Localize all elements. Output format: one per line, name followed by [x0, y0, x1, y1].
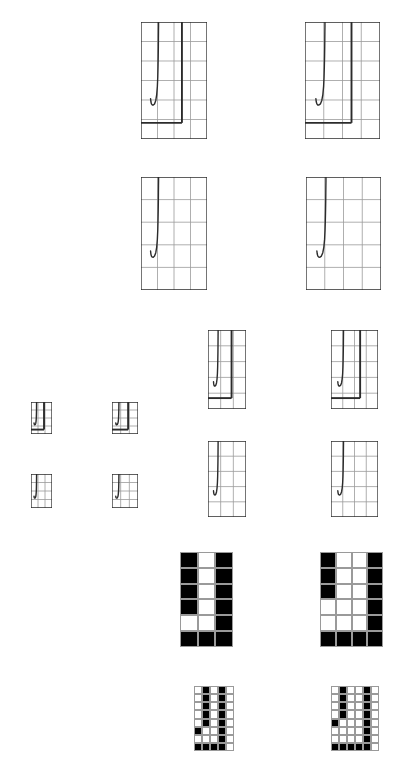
raster-cell: [371, 694, 379, 702]
raster-cell: [371, 702, 379, 710]
raster-cell: [218, 719, 226, 727]
raster-cell: [320, 599, 336, 615]
raster-cell: [202, 702, 210, 710]
curve-panel-medium-plain-narrow: [208, 441, 246, 517]
panel-gridlines: [306, 177, 381, 290]
raster-cell: [339, 735, 347, 743]
raster-cell: [198, 568, 216, 584]
raster-cell: [331, 686, 339, 694]
raster-cell: [218, 702, 226, 710]
raster-cell: [352, 599, 368, 615]
binarized-panel-coarse-wide: [320, 552, 383, 647]
raster-cell: [320, 615, 336, 631]
raster-cell: [367, 631, 383, 647]
raster-cell: [347, 694, 355, 702]
raster-cell: [363, 694, 371, 702]
curve-panel-medium-wide: [331, 330, 378, 409]
panel-gridlines: [331, 441, 378, 517]
curve-panel-large-narrow: [141, 22, 207, 139]
j-curve-path: [34, 474, 37, 498]
panel-gridlines: [141, 177, 207, 290]
raster-cell: [198, 631, 216, 647]
raster-cell: [226, 686, 234, 694]
raster-cell: [202, 743, 210, 751]
raster-cell: [210, 727, 218, 735]
binarized-panel-fine-narrow: [194, 686, 234, 751]
raster-cell: [355, 702, 363, 710]
panel-gridlines: [31, 474, 52, 508]
raster-cell: [363, 686, 371, 694]
raster-cell: [336, 568, 352, 584]
raster-cell: [320, 552, 336, 568]
raster-cell: [226, 702, 234, 710]
raster-cell: [215, 631, 233, 647]
raster-cell: [331, 710, 339, 718]
raster-cell: [367, 552, 383, 568]
raster-cell: [352, 584, 368, 600]
raster-cell: [202, 727, 210, 735]
curve-panel-plain-narrow: [141, 177, 207, 290]
raster-cell: [320, 584, 336, 600]
raster-cell: [339, 702, 347, 710]
raster-cell: [194, 735, 202, 743]
raster-cell: [339, 727, 347, 735]
raster-cell: [202, 686, 210, 694]
raster-cell: [215, 599, 233, 615]
raster-cell: [198, 552, 216, 568]
raster-cell: [352, 552, 368, 568]
raster-cell: [226, 727, 234, 735]
raster-cell: [336, 584, 352, 600]
raster-cell: [194, 710, 202, 718]
raster-cell: [347, 702, 355, 710]
raster-cell: [198, 599, 216, 615]
raster-cell: [210, 702, 218, 710]
raster-cell: [355, 694, 363, 702]
raster-cell: [194, 727, 202, 735]
raster-cell: [210, 710, 218, 718]
raster-cell: [194, 702, 202, 710]
raster-cell: [336, 599, 352, 615]
raster-cell: [215, 552, 233, 568]
raster-cell: [210, 694, 218, 702]
raster-cell: [363, 702, 371, 710]
raster-cell: [363, 710, 371, 718]
raster-cell: [226, 719, 234, 727]
raster-cell: [331, 702, 339, 710]
figure-canvas: [0, 0, 395, 780]
raster-cell: [371, 686, 379, 694]
raster-cell: [331, 694, 339, 702]
raster-cell: [180, 615, 198, 631]
curve-panel-tiny-plain-narrow: [31, 474, 52, 508]
raster-cell: [367, 568, 383, 584]
raster-cell: [226, 743, 234, 751]
raster-cell: [194, 719, 202, 727]
raster-cell: [347, 743, 355, 751]
raster-cell: [367, 615, 383, 631]
raster-cell: [218, 686, 226, 694]
raster-cell: [218, 735, 226, 743]
raster-cell: [363, 719, 371, 727]
raster-cell: [202, 735, 210, 743]
raster-cell: [180, 568, 198, 584]
raster-cell: [339, 686, 347, 694]
raster-cell: [180, 584, 198, 600]
raster-cell: [320, 631, 336, 647]
raster-cell: [355, 727, 363, 735]
raster-cell: [226, 710, 234, 718]
raster-cell: [339, 710, 347, 718]
raster-cell: [355, 710, 363, 718]
raster-cell: [331, 719, 339, 727]
raster-cell: [215, 584, 233, 600]
raster-cell: [371, 735, 379, 743]
raster-cell: [218, 727, 226, 735]
raster-cell: [347, 686, 355, 694]
raster-cell: [210, 743, 218, 751]
raster-cell: [215, 615, 233, 631]
raster-cell: [218, 694, 226, 702]
raster-cell: [202, 694, 210, 702]
j-curve-path: [116, 402, 119, 425]
raster-cell: [347, 710, 355, 718]
raster-cell: [339, 694, 347, 702]
raster-cell: [331, 727, 339, 735]
raster-cell: [210, 735, 218, 743]
